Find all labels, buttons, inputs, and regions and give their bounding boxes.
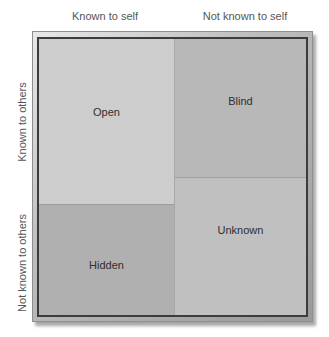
quadrant-unknown: Unknown <box>174 177 306 315</box>
quadrant-open: Open <box>39 39 174 204</box>
quadrant-open-label: Open <box>93 106 120 118</box>
quadrant-blind-label: Blind <box>228 95 252 107</box>
quadrant-unknown-label: Unknown <box>218 224 264 236</box>
quadrant-hidden-label: Hidden <box>89 259 124 271</box>
johari-window-frame: Open Blind Hidden Unknown <box>32 31 313 322</box>
row-header-not-known-to-others: Not known to others <box>16 214 28 312</box>
column-header-known-to-self: Known to self <box>70 10 140 22</box>
johari-window-grid: Open Blind Hidden Unknown <box>37 37 308 317</box>
quadrant-blind: Blind <box>174 39 306 177</box>
column-header-not-known-to-self: Not known to self <box>200 10 290 22</box>
quadrant-hidden: Hidden <box>39 204 174 315</box>
row-header-known-to-others: Known to others <box>16 82 28 162</box>
